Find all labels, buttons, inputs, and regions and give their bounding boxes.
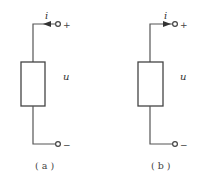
bottom-wire-a	[33, 106, 55, 144]
minus-terminal-a	[56, 142, 61, 147]
plus-sign-b: +	[180, 20, 188, 30]
minus-terminal-b	[173, 142, 178, 147]
current-label-b: i	[164, 10, 167, 21]
minus-sign-b: −	[180, 140, 188, 150]
voltage-label-a: u	[63, 71, 69, 82]
plus-sign-a: +	[63, 20, 71, 30]
current-arrow-b-icon	[163, 21, 171, 27]
current-arrow-a-icon	[43, 21, 51, 27]
caption-b: ( b )	[151, 160, 171, 171]
bottom-wire-b	[150, 106, 172, 144]
element-box-a	[21, 62, 45, 106]
plus-terminal-b	[173, 22, 178, 27]
minus-sign-a: −	[63, 140, 71, 150]
caption-a: ( a )	[35, 160, 54, 171]
panel-a: i + − u ( a )	[21, 10, 71, 171]
current-label-a: i	[45, 10, 48, 21]
top-wire-b	[150, 24, 172, 62]
plus-terminal-a	[56, 22, 61, 27]
voltage-label-b: u	[180, 71, 186, 82]
circuit-diagram: i + − u ( a ) i + − u ( b )	[0, 0, 197, 181]
panel-b: i + − u ( b )	[138, 10, 188, 171]
element-box-b	[138, 62, 163, 106]
top-wire-a	[33, 24, 55, 62]
